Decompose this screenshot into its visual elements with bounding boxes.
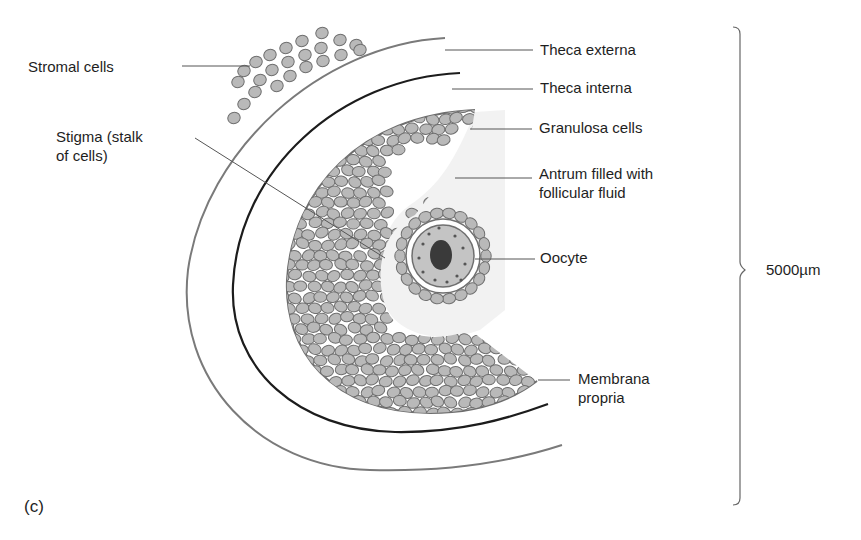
scale-bracket bbox=[733, 27, 745, 505]
panel-label: (c) bbox=[24, 497, 44, 517]
label-stigma-line1: Stigma (stalk bbox=[56, 127, 143, 146]
label-theca-externa: Theca externa bbox=[540, 40, 636, 59]
scale-label: 5000µm bbox=[766, 261, 821, 278]
follicle-diagram bbox=[0, 0, 861, 540]
label-stigma-line2: of cells) bbox=[56, 146, 143, 165]
label-stigma: Stigma (stalk of cells) bbox=[56, 127, 143, 165]
label-antrum: Antrum filled with follicular fluid bbox=[539, 164, 653, 202]
stromal-cells bbox=[226, 26, 368, 126]
label-membrana-line1: Membrana bbox=[578, 369, 650, 388]
oocyte bbox=[395, 207, 491, 304]
label-stromal-cells: Stromal cells bbox=[28, 57, 114, 76]
label-antrum-line2: follicular fluid bbox=[539, 183, 653, 202]
label-membrana-propria: Membrana propria bbox=[578, 369, 650, 407]
oocyte-nucleus bbox=[430, 240, 452, 270]
label-antrum-line1: Antrum filled with bbox=[539, 164, 653, 183]
label-oocyte: Oocyte bbox=[540, 248, 588, 267]
label-membrana-line2: propria bbox=[578, 388, 650, 407]
label-theca-interna: Theca interna bbox=[540, 78, 632, 97]
label-granulosa-cells: Granulosa cells bbox=[539, 118, 642, 137]
